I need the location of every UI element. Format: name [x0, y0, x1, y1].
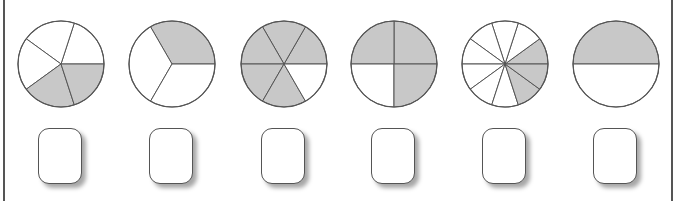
fraction-circle-5 — [460, 19, 550, 109]
shaded-sector — [573, 21, 659, 64]
answer-box-3[interactable] — [261, 128, 305, 184]
answer-box-2[interactable] — [149, 128, 193, 184]
answer-box-4[interactable] — [371, 128, 415, 184]
fraction-circle-1 — [16, 19, 106, 109]
fraction-circle-2 — [127, 19, 217, 109]
answer-box-5[interactable] — [482, 128, 526, 184]
fraction-circle-6 — [571, 19, 661, 109]
fraction-circle-4 — [349, 19, 439, 109]
answer-box-1[interactable] — [38, 128, 82, 184]
fraction-circle-3 — [239, 19, 329, 109]
unshaded-sector — [573, 64, 659, 107]
answer-box-6[interactable] — [593, 128, 637, 184]
